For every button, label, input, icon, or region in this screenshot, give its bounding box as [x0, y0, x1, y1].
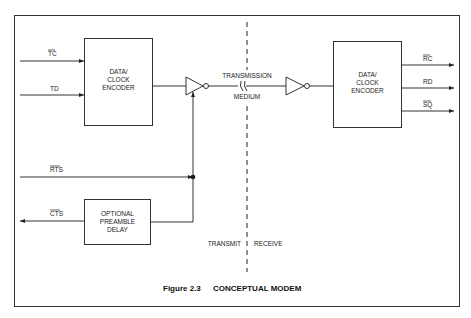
rts-label: RTS [50, 166, 64, 173]
receiver-gate-icon [286, 77, 304, 95]
receive-decoder-line1: DATA/ [358, 71, 376, 78]
transmit-encoder-line3: ENCODER [102, 84, 135, 91]
transmit-driver-bubble [204, 84, 209, 89]
receive-side-label: RECEIVE [254, 240, 283, 247]
figure-caption-number: Figure 2.3 [163, 284, 201, 293]
rc-label: RC [423, 55, 433, 62]
receive-decoder-line2: CLOCK [356, 79, 379, 86]
td-label: TD [50, 85, 59, 92]
delay-box-line1: OPTIONAL [101, 210, 134, 217]
figure-caption-title: CONCEPTUAL MODEM [213, 284, 302, 293]
conceptual-modem-diagram: DATA/ CLOCK ENCODER TC TD TRANSMISSION M… [0, 0, 471, 318]
medium-label-1: TRANSMISSION [222, 72, 272, 79]
transmit-side-label: TRANSMIT [208, 240, 241, 247]
tc-label: TC [48, 50, 57, 57]
rd-label: RD [423, 78, 433, 85]
delay-box-line2: PREAMBLE [100, 218, 136, 225]
transmit-driver-gate-icon [186, 77, 203, 95]
transmit-encoder-line2: CLOCK [107, 76, 130, 83]
delay-box-line3: DELAY [107, 226, 128, 233]
receive-decoder-line3: ENCODER [351, 87, 384, 94]
cts-label: CTS [50, 210, 64, 217]
sq-label: SQ [423, 101, 432, 109]
medium-label-2: MEDIUM [234, 93, 260, 100]
medium-break-icon-left [240, 81, 243, 91]
receiver-bubble [305, 84, 310, 89]
transmit-encoder-line1: DATA/ [109, 68, 127, 75]
figure-frame [15, 16, 460, 307]
